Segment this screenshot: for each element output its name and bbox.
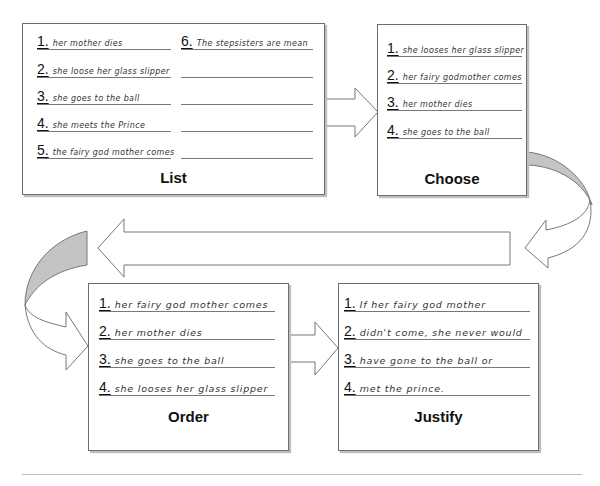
blank-line	[181, 60, 313, 78]
item-text: she loose her glass slipper	[53, 67, 170, 76]
item-text: The stepsisters are mean	[197, 39, 308, 48]
item-number: 1.	[387, 40, 399, 56]
item-number: 3.	[344, 351, 356, 367]
list-title: List	[23, 169, 324, 186]
item-number: 3.	[37, 88, 49, 104]
item-number: 2.	[99, 323, 111, 339]
choose-item-4: 4.she goes to the ball	[387, 121, 522, 139]
item-number: 3.	[387, 94, 399, 110]
arrow-right-to-left	[98, 219, 510, 277]
order-item-2: 2.her mother dies	[99, 322, 275, 340]
item-text: met the prince.	[360, 383, 445, 394]
order-item-4: 4.she looses her glass slipper	[99, 378, 275, 396]
item-text: she looses her glass slipper	[403, 46, 525, 55]
blank-line	[181, 141, 313, 159]
item-text: she meets the Prince	[53, 121, 146, 130]
list-item-1: 1.her mother dies	[37, 32, 171, 50]
order-item-3: 3.she goes to the ball	[99, 350, 275, 368]
curved-arrow-choose-down	[525, 200, 591, 268]
arrow-order-to-justify	[290, 322, 338, 375]
list-box: 1.her mother dies 6.The stepsisters are …	[22, 23, 325, 195]
curved-arrow-to-order-shade	[25, 231, 87, 305]
list-item-4: 4.she meets the Prince	[37, 114, 171, 132]
item-text: her fairy god mother comes	[115, 299, 269, 310]
item-number: 1.	[344, 295, 356, 311]
choose-item-3: 3.her mother dies	[387, 93, 522, 111]
list-item-2: 2.she loose her glass slipper	[37, 60, 171, 78]
item-number: 4.	[37, 115, 49, 131]
item-number: 4.	[99, 379, 111, 395]
justify-item-2: 2.didn't come, she never would	[344, 322, 530, 340]
item-number: 5.	[37, 142, 49, 158]
choose-item-1: 1.she looses her glass slipper	[387, 39, 522, 57]
blank-line	[181, 87, 313, 105]
curved-arrow-to-order	[25, 305, 88, 370]
blank-line	[181, 114, 313, 132]
item-text: she goes to the ball	[403, 128, 490, 137]
choose-title: Choose	[378, 170, 526, 187]
choose-box: 1.she looses her glass slipper 2.her fai…	[377, 24, 527, 196]
item-number: 2.	[387, 67, 399, 83]
curved-arrow-choose-down-shade	[527, 152, 592, 205]
footer-divider	[22, 474, 582, 475]
arrow-list-to-choose	[326, 88, 378, 137]
item-text: the fairy god mother comes	[53, 148, 175, 157]
order-title: Order	[89, 408, 288, 425]
justify-box: 1.If her fairy god mother 2.didn't come,…	[338, 283, 539, 451]
list-item-6: 6.The stepsisters are mean	[181, 32, 313, 50]
order-box: 1.her fairy god mother comes 2.her mothe…	[88, 283, 289, 451]
item-number: 1.	[99, 295, 111, 311]
item-number: 2.	[37, 61, 49, 77]
justify-item-3: 3.have gone to the ball or	[344, 350, 530, 368]
item-text: she goes to the ball	[53, 94, 140, 103]
justify-item-4: 4.met the prince.	[344, 378, 530, 396]
item-number: 2.	[344, 323, 356, 339]
justify-item-1: 1.If her fairy god mother	[344, 294, 530, 312]
item-text: didn't come, she never would	[360, 327, 523, 338]
item-text: her fairy godmother comes	[403, 73, 522, 82]
order-item-1: 1.her fairy god mother comes	[99, 294, 275, 312]
item-text: she goes to the ball	[115, 355, 225, 366]
item-number: 4.	[344, 379, 356, 395]
item-text: her mother dies	[115, 327, 203, 338]
list-item-3: 3.she goes to the ball	[37, 87, 171, 105]
item-number: 6.	[181, 33, 193, 49]
item-text: If her fairy god mother	[360, 299, 486, 310]
item-number: 3.	[99, 351, 111, 367]
item-text: her mother dies	[403, 100, 473, 109]
item-text: her mother dies	[53, 39, 123, 48]
item-text: have gone to the ball or	[360, 355, 493, 366]
choose-item-2: 2.her fairy godmother comes	[387, 66, 522, 84]
list-item-5: 5.the fairy god mother comes	[37, 141, 171, 159]
item-number: 4.	[387, 122, 399, 138]
justify-title: Justify	[339, 408, 538, 425]
item-text: she looses her glass slipper	[115, 383, 269, 394]
item-number: 1.	[37, 33, 49, 49]
